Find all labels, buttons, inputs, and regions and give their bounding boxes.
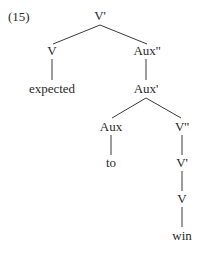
node-aux-bar: Aux' <box>134 82 159 96</box>
edge-vbar-auxdbl <box>100 25 147 44</box>
leaf-win: win <box>172 229 192 243</box>
node-v-lower: V <box>177 192 186 206</box>
leaf-to: to <box>106 156 116 170</box>
node-aux-double-bar: Aux'' <box>133 44 160 58</box>
node-aux: Aux <box>100 120 122 134</box>
edge-auxbar-vdbl <box>146 98 181 118</box>
node-v-bar-lower: V' <box>176 156 188 170</box>
edge-vbar-v <box>53 25 100 44</box>
node-v-left: V <box>47 44 56 58</box>
node-v-double-bar: V'' <box>175 120 189 134</box>
example-number: (15) <box>8 10 30 24</box>
leaf-expected: expected <box>29 82 75 96</box>
node-v-bar-root: V' <box>94 9 106 23</box>
edge-auxbar-aux <box>112 98 146 118</box>
